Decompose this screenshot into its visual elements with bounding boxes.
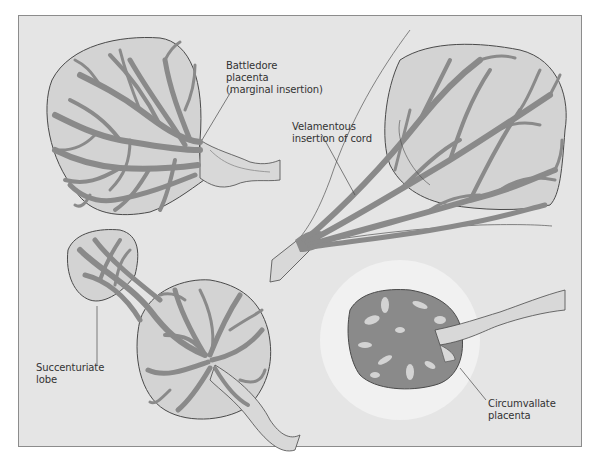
velamentous-label: Velamentous insertion of cord [292, 121, 372, 145]
succenturiate-label: Succenturiate lobe [36, 362, 104, 386]
circumvallate-label: Circumvallate placenta [488, 398, 556, 422]
circumvallate-placenta [320, 260, 565, 420]
battledore-label: Battledore placenta (marginal insertion) [226, 60, 323, 96]
succenturiate-placenta [67, 230, 300, 451]
